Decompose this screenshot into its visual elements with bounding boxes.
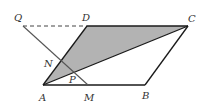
- label-n: N: [43, 58, 54, 69]
- label-q: Q: [14, 12, 22, 23]
- label-p: P: [68, 74, 76, 85]
- label-m: M: [83, 92, 95, 103]
- label-a: A: [38, 92, 46, 103]
- geometry-diagram: Q D C N P A M B: [0, 0, 210, 109]
- label-b: B: [141, 90, 149, 101]
- label-c: C: [188, 13, 196, 24]
- label-d: D: [81, 12, 90, 23]
